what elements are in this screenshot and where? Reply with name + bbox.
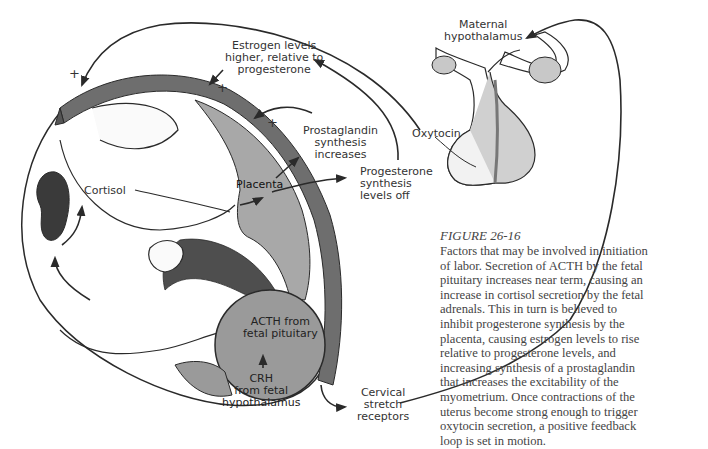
plus-sign: + [69, 66, 80, 81]
caption-line: pituitary increases near term, causing a… [440, 273, 708, 288]
label-progesterone: Progesterone synthesis levels off [360, 166, 433, 202]
labor-initiation-figure: Estrogen levels higher, relative to prog… [0, 0, 708, 449]
label-line: hypothalamus [222, 397, 300, 409]
caption-line: uterus become strong enough to trigger [440, 405, 708, 420]
caption-line: relative to progesterone levels, and [440, 346, 708, 361]
caption-line: inhibit progesterone synthesis by the [440, 317, 708, 332]
label-line: levels off [360, 190, 433, 202]
caption-line: that increases the excitability of the [440, 375, 708, 390]
label-line: progesterone [225, 64, 323, 76]
label-line: increases [303, 149, 378, 161]
caption-line: loop is set in motion. [440, 434, 708, 449]
uterus [22, 75, 342, 406]
caption-line: of labor. Secretion of ACTH by the fetal [440, 259, 708, 274]
caption-line: Factors that may be involved in initiati… [440, 244, 708, 259]
caption-line: adrenals. This in turn is believed to [440, 302, 708, 317]
label-cortisol: Cortisol [84, 185, 126, 197]
plus-sign: + [217, 80, 228, 95]
figure-caption: FIGURE 26-16 Factors that may be involve… [440, 228, 708, 448]
label-acth: ACTH from fetal pituitary [243, 316, 318, 340]
caption-line: oxytocin secretion, a positive feedback [440, 419, 708, 434]
label-maternal-hypothalamus: Maternal hypothalamus [444, 19, 522, 43]
caption-line: placenta, causing estrogen levels to ris… [440, 332, 708, 347]
label-cervical: Cervical stretch receptors [357, 387, 409, 423]
label-crh: CRH from fetal hypothalamus [222, 373, 300, 409]
label-oxytocin: Oxytocin [412, 128, 461, 140]
label-line: hypothalamus [444, 31, 522, 43]
plus-sign: + [267, 115, 278, 130]
label-placenta: Placenta [236, 179, 283, 191]
caption-line: increase in cortisol secretion by the fe… [440, 288, 708, 303]
label-line: receptors [357, 411, 409, 423]
caption-line: increasing synthesis of a prostaglandin [440, 361, 708, 376]
maternal-pituitary [432, 32, 568, 185]
caption-body: Factors that may be involved in initiati… [440, 244, 708, 448]
caption-line: myometrium. Once contractions of the [440, 390, 708, 405]
label-line: fetal pituitary [243, 328, 318, 340]
label-estrogen: Estrogen levels higher, relative to prog… [225, 40, 323, 76]
label-prostaglandin: Prostaglandin synthesis increases [303, 125, 378, 161]
caption-title: FIGURE 26-16 [440, 228, 708, 244]
